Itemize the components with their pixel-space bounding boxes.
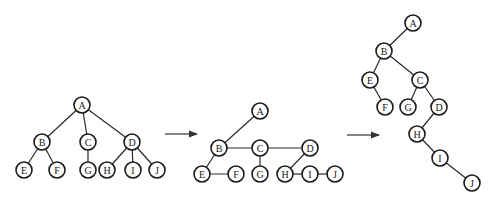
node-g: G xyxy=(400,99,416,115)
node-e: E xyxy=(16,162,32,178)
node-label: C xyxy=(85,137,92,148)
node-f: F xyxy=(377,99,393,115)
node-label: A xyxy=(78,100,86,111)
binary-tree: ABECFGDHIJ xyxy=(362,15,480,191)
node-b: B xyxy=(211,140,227,156)
node-label: D xyxy=(306,143,313,154)
node-label: E xyxy=(21,165,27,176)
node-b: B xyxy=(376,43,392,59)
node-label: H xyxy=(413,129,420,140)
node-e: E xyxy=(194,166,210,182)
node-label: D xyxy=(435,102,442,113)
node-f: F xyxy=(49,162,65,178)
node-label: H xyxy=(103,165,110,176)
diagram-canvas: ABCDEFGHIJABCDEFGHIJABECFGDHIJ xyxy=(0,0,491,205)
node-label: I xyxy=(308,169,311,180)
node-label: H xyxy=(281,169,288,180)
node-h: H xyxy=(277,166,293,182)
node-label: G xyxy=(256,169,263,180)
node-j: J xyxy=(464,175,480,191)
node-a: A xyxy=(252,103,268,119)
node-label: I xyxy=(438,153,441,164)
node-label: J xyxy=(333,169,337,180)
node-label: F xyxy=(382,102,388,113)
node-label: J xyxy=(470,178,474,189)
node-label: F xyxy=(233,169,239,180)
original-tree: ABCDEFGHIJ xyxy=(16,97,165,178)
node-f: F xyxy=(228,166,244,182)
node-d: D xyxy=(431,99,447,115)
node-label: G xyxy=(84,165,91,176)
node-label: B xyxy=(39,137,46,148)
node-label: J xyxy=(155,165,159,176)
node-label: G xyxy=(404,102,411,113)
node-h: H xyxy=(409,126,425,142)
tree-conversion-diagram: ABCDEFGHIJABCDEFGHIJABECFGDHIJ xyxy=(0,0,491,205)
sibling-linked-tree: ABCDEFGHIJ xyxy=(194,103,343,182)
node-label: D xyxy=(128,137,135,148)
node-i: I xyxy=(125,162,141,178)
node-label: C xyxy=(257,143,264,154)
node-e: E xyxy=(362,72,378,88)
node-d: D xyxy=(124,134,140,150)
node-a: A xyxy=(405,15,421,31)
node-label: B xyxy=(216,143,223,154)
node-c: C xyxy=(80,134,96,150)
node-g: G xyxy=(252,166,268,182)
node-h: H xyxy=(99,162,115,178)
node-label: A xyxy=(409,18,417,29)
node-c: C xyxy=(412,72,428,88)
node-d: D xyxy=(302,140,318,156)
node-label: B xyxy=(381,46,388,57)
node-label: E xyxy=(367,75,373,86)
node-g: G xyxy=(80,162,96,178)
node-i: I xyxy=(302,166,318,182)
node-j: J xyxy=(149,162,165,178)
node-label: C xyxy=(417,75,424,86)
node-b: B xyxy=(34,134,50,150)
node-label: I xyxy=(131,165,134,176)
node-i: I xyxy=(432,150,448,166)
node-label: E xyxy=(199,169,205,180)
node-c: C xyxy=(252,140,268,156)
node-a: A xyxy=(74,97,90,113)
node-j: J xyxy=(327,166,343,182)
node-label: F xyxy=(54,165,60,176)
node-label: A xyxy=(256,106,264,117)
